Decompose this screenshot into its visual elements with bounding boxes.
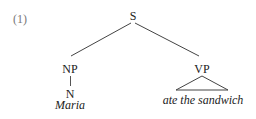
- edge-s-np: [71, 23, 131, 56]
- node-s: S: [130, 10, 137, 22]
- leaf-maria: Maria: [55, 99, 85, 111]
- node-vp: VP: [194, 63, 209, 75]
- edge-s-vp: [135, 23, 199, 56]
- leaf-vp-phrase: ate the sandwich: [163, 94, 244, 106]
- vp-triangle: [176, 76, 228, 90]
- node-np: NP: [62, 63, 77, 75]
